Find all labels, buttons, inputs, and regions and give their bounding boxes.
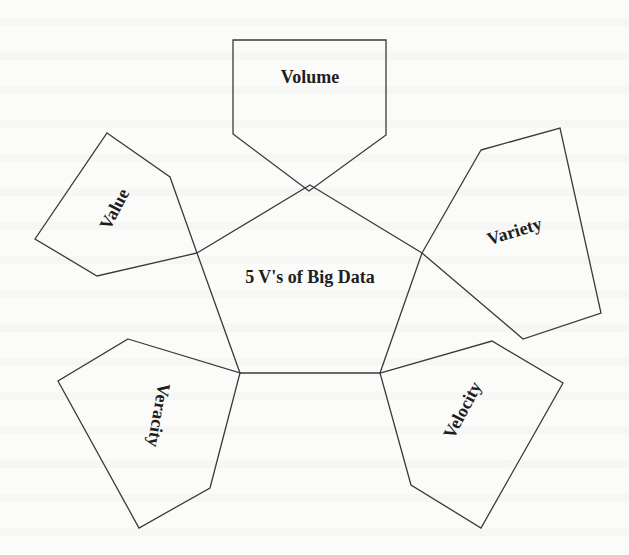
petal-variety: Variety (422, 128, 601, 339)
label-variety: Variety (485, 213, 545, 249)
center-hub: 5 V's of Big Data (197, 185, 422, 373)
five-vs-diagram: Volume Value Variety Veracity Velocity 5… (0, 0, 629, 555)
pentagon-volume (233, 40, 386, 191)
pentagon-velocity (380, 341, 563, 528)
label-value: Value (95, 185, 133, 233)
label-velocity: Velocity (439, 378, 485, 442)
petal-volume: Volume (233, 40, 386, 191)
petal-veracity: Veracity (58, 339, 240, 528)
center-title: 5 V's of Big Data (245, 267, 375, 287)
label-veracity: Veracity (143, 382, 174, 449)
label-volume: Volume (281, 67, 339, 87)
petal-velocity: Velocity (380, 341, 563, 528)
page-background: Volume Value Variety Veracity Velocity 5… (0, 0, 629, 555)
petal-value: Value (35, 133, 197, 276)
